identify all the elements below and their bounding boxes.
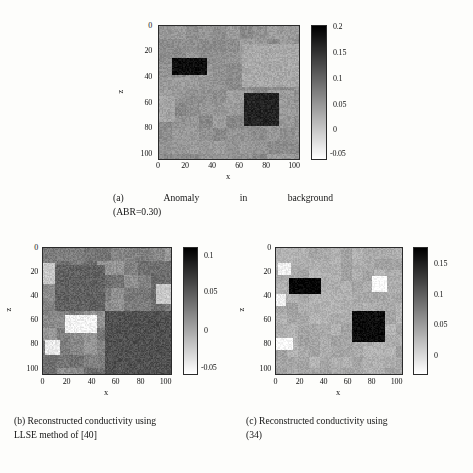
y-axis-label-c: z (237, 300, 246, 320)
x-tick-a-0: 0 (150, 162, 166, 170)
colorbar-b (183, 247, 198, 375)
caption-b: (b) Reconstructed conductivity using LLS… (14, 414, 229, 441)
x-tick-b-40: 40 (84, 378, 99, 386)
y-tick-c-20: 20 (249, 268, 271, 276)
y-tick-a-40: 40 (130, 73, 152, 81)
x-tick-b-100: 100 (156, 378, 175, 386)
x-tick-b-20: 20 (59, 378, 74, 386)
y-tick-c-40: 40 (249, 292, 271, 300)
cbar-c-tick-0: 0.15 (434, 260, 466, 268)
heatmap-c (275, 247, 403, 375)
heatmap-a (158, 25, 300, 160)
cbar-a-tick-2: 0.1 (333, 75, 367, 83)
x-tick-a-40: 40 (204, 162, 220, 170)
x-tick-b-60: 60 (108, 378, 123, 386)
colorbar-a (311, 25, 327, 160)
y-tick-b-20: 20 (16, 268, 38, 276)
cbar-b-tick-3: -0.05 (201, 364, 237, 372)
caption-c-line2: (34) (246, 428, 461, 442)
x-tick-b-0: 0 (35, 378, 50, 386)
y-tick-a-80: 80 (130, 124, 152, 132)
y-tick-a-20: 20 (130, 47, 152, 55)
cbar-a-tick-5: -0.05 (330, 150, 368, 158)
y-tick-b-40: 40 (16, 292, 38, 300)
y-axis-label-b: z (4, 300, 13, 320)
cbar-a-tick-0: 0.2 (333, 23, 367, 31)
x-tick-a-20: 20 (177, 162, 193, 170)
cbar-c-tick-2: 0.05 (434, 321, 466, 329)
cbar-a-tick-3: 0.05 (333, 101, 367, 109)
caption-a: (a) Anomaly in background (ABR=0.30) (113, 191, 333, 218)
cbar-b-tick-2: 0 (204, 327, 236, 335)
y-tick-a-0: 0 (130, 22, 152, 30)
y-tick-c-0: 0 (249, 244, 271, 252)
y-tick-b-80: 80 (16, 340, 38, 348)
x-tick-c-100: 100 (387, 378, 406, 386)
panel-b: 0 20 40 60 80 100 0 20 40 60 80 100 z x … (0, 228, 240, 473)
y-tick-b-0: 0 (16, 244, 38, 252)
cbar-a-tick-1: 0.15 (333, 49, 367, 57)
x-axis-label-b: x (99, 388, 113, 397)
y-tick-b-100: 100 (12, 365, 38, 373)
caption-c-line1: (c) Reconstructed conductivity using (246, 414, 461, 428)
x-tick-c-60: 60 (340, 378, 355, 386)
panel-a: 0 20 40 60 80 100 0 20 40 60 80 100 z x … (0, 0, 473, 185)
x-tick-b-80: 80 (133, 378, 148, 386)
cbar-c-tick-1: 0.1 (434, 291, 466, 299)
y-tick-a-100: 100 (126, 150, 152, 158)
y-tick-a-60: 60 (130, 99, 152, 107)
cbar-c-tick-3: 0 (434, 352, 466, 360)
x-tick-c-20: 20 (292, 378, 307, 386)
caption-a-line1: (a) Anomaly in background (113, 191, 333, 205)
caption-b-line1: (b) Reconstructed conductivity using (14, 414, 229, 428)
y-tick-c-80: 80 (249, 340, 271, 348)
y-tick-b-60: 60 (16, 316, 38, 324)
x-tick-a-80: 80 (258, 162, 274, 170)
x-tick-c-80: 80 (364, 378, 379, 386)
cbar-b-tick-1: 0.05 (204, 288, 236, 296)
figure-container: 0 20 40 60 80 100 0 20 40 60 80 100 z x … (0, 0, 473, 473)
colorbar-c (413, 247, 428, 375)
caption-a-line2: (ABR=0.30) (113, 205, 333, 219)
panel-c: 0 20 40 60 80 100 0 20 40 60 80 100 z x … (237, 228, 473, 473)
x-axis-label-a: x (221, 172, 235, 181)
y-tick-c-60: 60 (249, 316, 271, 324)
cbar-a-tick-4: 0 (333, 126, 367, 134)
x-tick-c-40: 40 (316, 378, 331, 386)
caption-c: (c) Reconstructed conductivity using (34… (246, 414, 461, 441)
x-axis-label-c: x (331, 388, 345, 397)
x-tick-c-0: 0 (268, 378, 283, 386)
heatmap-b (42, 247, 172, 375)
y-tick-c-100: 100 (245, 365, 271, 373)
cbar-b-tick-0: 0.1 (204, 252, 236, 260)
caption-b-line2: LLSE method of [40] (14, 428, 229, 442)
x-tick-a-60: 60 (231, 162, 247, 170)
x-tick-a-100: 100 (284, 162, 304, 170)
y-axis-label-a: z (116, 82, 125, 102)
